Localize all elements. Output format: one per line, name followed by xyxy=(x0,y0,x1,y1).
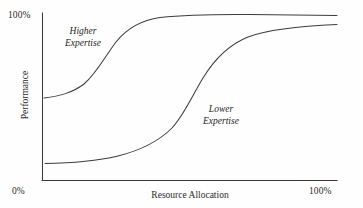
annotation-lower-expertise: Lower Expertise xyxy=(190,104,252,127)
annotation-higher-expertise-line1: Higher xyxy=(52,26,114,38)
annotation-lower-expertise-line1: Lower xyxy=(190,104,252,116)
x-axis-title: Resource Allocation xyxy=(42,190,338,200)
annotation-higher-expertise-line2: Expertise xyxy=(52,38,114,50)
annotation-higher-expertise: Higher Expertise xyxy=(52,26,114,49)
annotation-lower-expertise-line2: Expertise xyxy=(190,116,252,128)
x-axis-tick-label-left: 0% xyxy=(12,186,25,196)
y-axis-title: Performance xyxy=(20,50,30,140)
y-axis-tick-label-top: 100% xyxy=(8,10,31,20)
chart-figure: 100% 0% 100% Performance Resource Alloca… xyxy=(0,0,363,208)
